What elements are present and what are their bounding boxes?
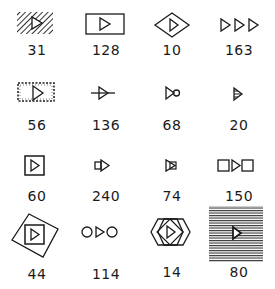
grid-cell-114: 114	[72, 210, 140, 282]
striped-triangle-icon	[205, 73, 273, 145]
grid-cell-80: 80	[205, 210, 273, 282]
item-label: 240	[72, 188, 140, 204]
grid-cell-74: 74	[138, 146, 206, 218]
item-label: 56	[3, 117, 71, 133]
grid-cell-136: 136	[72, 73, 140, 145]
grid-cell-60: 60	[3, 146, 71, 218]
grid-cell-14: 14	[138, 210, 206, 282]
item-label: 114	[72, 266, 140, 282]
grid-cell-20: 20	[205, 73, 273, 145]
triangle-with-circle-icon	[138, 73, 206, 145]
grid-cell-128: 128	[72, 0, 140, 72]
triangle-on-line-icon	[72, 73, 140, 145]
item-label: 20	[205, 117, 273, 133]
item-label: 44	[3, 266, 71, 282]
item-label: 10	[138, 42, 206, 58]
item-label: 68	[138, 117, 206, 133]
three-triangles-icon	[205, 0, 273, 72]
item-label: 163	[205, 42, 273, 58]
item-label: 128	[72, 42, 140, 58]
item-label: 74	[138, 188, 206, 204]
square-with-triangle-icon	[3, 146, 71, 218]
small-square-triangle-icon	[72, 146, 140, 218]
dashed-rect-with-triangle-icon	[3, 73, 71, 145]
item-label: 31	[3, 42, 71, 58]
item-label: 136	[72, 117, 140, 133]
hatched-diagonal-rect-with-triangle-icon	[3, 0, 71, 72]
grid-cell-68: 68	[138, 73, 206, 145]
grid-cell-163: 163	[205, 0, 273, 72]
item-label: 14	[138, 264, 206, 280]
item-label: 60	[3, 188, 71, 204]
grid-cell-44: 44	[3, 210, 71, 282]
triangle-with-square-icon	[138, 146, 206, 218]
diamond-with-triangle-icon	[138, 0, 206, 72]
grid-cell-10: 10	[138, 0, 206, 72]
item-label: 80	[205, 264, 273, 280]
item-label: 150	[205, 188, 273, 204]
rectangle-with-triangle-icon	[72, 0, 140, 72]
grid-cell-240: 240	[72, 146, 140, 218]
grid-cell-56: 56	[3, 73, 71, 145]
grid-cell-31: 31	[3, 0, 71, 72]
